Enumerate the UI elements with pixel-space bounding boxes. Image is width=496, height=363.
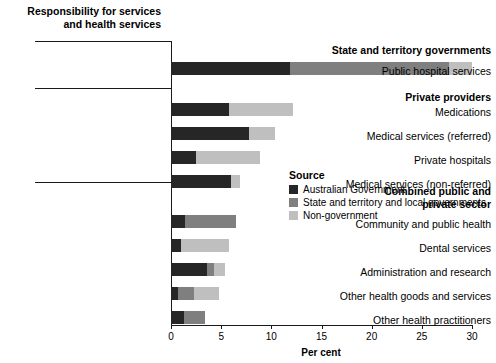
category-label: Other health goods and services — [330, 290, 496, 302]
x-axis-tick — [472, 325, 473, 329]
category-label: Public hospital services — [330, 65, 496, 77]
x-axis-label: Per cent — [301, 347, 340, 358]
category-label: Medications — [330, 106, 496, 118]
x-axis-tick — [221, 325, 222, 329]
x-axis-tick — [322, 325, 323, 329]
x-axis-tick-label: 15 — [316, 331, 327, 342]
category-label: Administration and research — [330, 266, 496, 278]
bar-segment — [184, 311, 205, 324]
category-label-text: Medications — [435, 106, 496, 118]
bar-segment — [181, 239, 229, 252]
category-label-text: Public hospital services — [382, 65, 496, 77]
x-axis-tick-label: 30 — [466, 331, 477, 342]
legend-swatch-icon — [289, 185, 298, 194]
bar-segment — [171, 103, 229, 116]
bar-segment — [171, 151, 196, 164]
x-axis-tick-label: 25 — [416, 331, 427, 342]
bar-segment — [171, 263, 207, 276]
legend-items: Australian GovernmentState and territory… — [289, 184, 486, 221]
group-label-text: State and territory governments — [332, 44, 496, 57]
bar-segment — [171, 215, 185, 228]
bar-segment — [171, 239, 181, 252]
legend-title: Source — [289, 169, 486, 181]
category-label-text: Other health practitioners — [373, 314, 496, 326]
legend-item: Non-government — [289, 210, 486, 221]
category-label-text: Administration and research — [360, 266, 496, 278]
bar-segment — [207, 263, 214, 276]
x-axis-tick — [271, 325, 272, 329]
bar-segment — [231, 175, 240, 188]
group-separator-2 — [35, 88, 172, 89]
x-axis-tick-label: 0 — [168, 331, 174, 342]
legend-item-label: Non-government — [303, 210, 377, 221]
bar-segment — [171, 175, 231, 188]
bar-segment — [171, 62, 290, 75]
category-label-text: Other health goods and services — [340, 290, 496, 302]
category-label-text: Dental services — [419, 242, 496, 254]
bar-segment — [185, 215, 236, 228]
page-title-text: Responsibility for services and health s… — [27, 5, 166, 31]
legend-item-label: State and territory and local government… — [303, 197, 486, 208]
legend-item: State and territory and local government… — [289, 197, 486, 208]
bar-segment — [171, 311, 184, 324]
bar-segment — [178, 287, 194, 300]
group-label-text: Private providers — [405, 91, 496, 104]
group-separator-1 — [35, 41, 172, 42]
group-label: Private providers — [330, 91, 496, 104]
category-label: Medical services (referred) — [330, 130, 496, 142]
category-label: Private hospitals — [330, 154, 496, 166]
legend: Source Australian GovernmentState and te… — [289, 169, 486, 223]
group-label: State and territory governments — [330, 44, 496, 57]
x-axis-tick-label: 5 — [218, 331, 224, 342]
x-axis-tick-label: 20 — [366, 331, 377, 342]
bar-segment — [214, 263, 225, 276]
bar-segment — [196, 151, 260, 164]
bar-segment — [249, 127, 275, 140]
category-label-text: Private hospitals — [414, 154, 496, 166]
bar-segment — [229, 103, 293, 116]
x-axis-tick — [422, 325, 423, 329]
bar-segment — [171, 287, 178, 300]
legend-item: Australian Government — [289, 184, 486, 195]
x-axis-tick-label: 10 — [266, 331, 277, 342]
group-separator-3 — [35, 182, 172, 183]
category-label-text: Medical services (referred) — [367, 130, 496, 142]
x-axis-tick — [372, 325, 373, 329]
bar-segment — [171, 127, 249, 140]
category-label: Dental services — [330, 242, 496, 254]
legend-swatch-icon — [289, 198, 298, 207]
bar-segment — [194, 287, 219, 300]
legend-item-label: Australian Government — [303, 184, 405, 195]
x-axis-tick — [171, 325, 172, 329]
legend-swatch-icon — [289, 211, 298, 220]
chart-container: Responsibility for services and health s… — [0, 0, 496, 363]
page-title: Responsibility for services and health s… — [0, 5, 166, 31]
